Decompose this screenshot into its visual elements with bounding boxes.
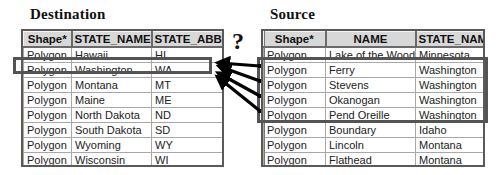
many-to-one-arrows-icon xyxy=(0,0,500,175)
arrow-ferry xyxy=(220,63,260,66)
